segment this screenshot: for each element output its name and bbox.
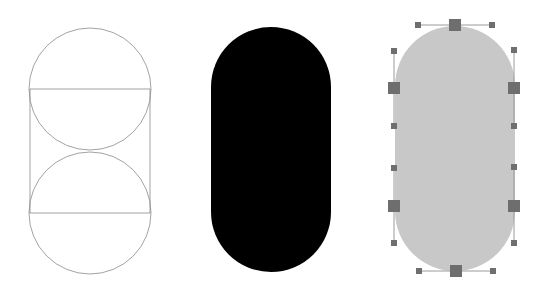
drawing-surface: [0, 0, 548, 296]
bezier-control-point[interactable]: [511, 123, 517, 129]
filled-stadium-shape[interactable]: [211, 27, 331, 272]
bezier-control-point[interactable]: [511, 240, 517, 246]
bezier-control-point[interactable]: [511, 164, 517, 170]
bezier-control-point[interactable]: [415, 22, 421, 28]
bounding-rectangle: [30, 89, 150, 213]
anchor-point[interactable]: [388, 82, 400, 94]
bezier-control-point[interactable]: [391, 48, 397, 54]
bezier-control-point[interactable]: [490, 268, 496, 274]
construction-figure: [29, 28, 151, 274]
canvas: [0, 0, 548, 296]
anchor-point[interactable]: [450, 265, 462, 277]
black-stadium[interactable]: [211, 27, 331, 272]
anchor-point[interactable]: [388, 200, 400, 212]
bezier-control-point[interactable]: [391, 165, 397, 171]
gray-stadium[interactable]: [395, 26, 515, 271]
anchor-point[interactable]: [449, 19, 461, 31]
selected-stadium-shape[interactable]: [388, 19, 520, 277]
anchor-point[interactable]: [508, 200, 520, 212]
bezier-control-point[interactable]: [416, 268, 422, 274]
bezier-control-point[interactable]: [391, 123, 397, 129]
bezier-control-point[interactable]: [391, 240, 397, 246]
bezier-control-point[interactable]: [489, 22, 495, 28]
bezier-control-point[interactable]: [511, 47, 517, 53]
anchor-point[interactable]: [508, 82, 520, 94]
